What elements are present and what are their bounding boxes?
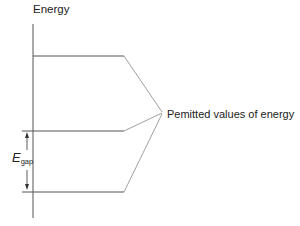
- pointer-line-upper: [124, 56, 162, 112]
- gap-label: Egap: [12, 150, 33, 166]
- annotation-label: Pemitted values of energy: [167, 108, 294, 120]
- gap-symbol: E: [12, 150, 21, 165]
- pointer-line-middle: [124, 113, 162, 131]
- axis-label: Energy: [33, 3, 69, 15]
- pointer-line-lower: [124, 114, 162, 192]
- gap-subscript: gap: [21, 157, 34, 166]
